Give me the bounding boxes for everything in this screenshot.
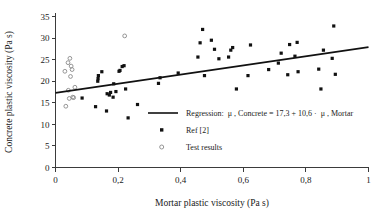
data-point-ref2 [296,41,299,44]
data-point-ref2 [81,96,84,99]
data-point-test-result [66,61,70,65]
data-point-ref2 [157,82,160,85]
data-point-ref2 [317,68,320,71]
y-tick-label: 5 [45,141,50,151]
scatter-chart-figure: 0510152025303500,20,40,60,81Mortar plast… [0,0,374,213]
data-point-ref2 [105,109,108,112]
data-point-ref2 [332,24,335,27]
data-point-ref2 [217,57,220,60]
data-point-ref2 [122,64,125,67]
legend-marker-test-results [160,145,164,149]
data-point-ref2 [246,74,249,77]
legend-label-regression: Regression: μ , Concrete = 17,3 + 10,6 ·… [186,109,353,118]
x-tick-label: 0,2 [112,175,123,185]
data-point-ref2 [96,77,99,80]
data-point-test-result [68,56,72,60]
regression-line [56,47,369,93]
y-tick-label: 0 [45,163,50,173]
data-point-ref2 [127,116,130,119]
legend-label-test-results: Test results [186,143,222,152]
data-point-test-result [64,104,68,108]
data-point-ref2 [97,74,100,77]
data-point-ref2 [114,90,117,93]
data-point-test-result [69,75,73,79]
data-point-ref2 [267,68,270,71]
data-point-ref2 [94,105,97,108]
data-point-ref2 [334,73,337,76]
data-point-ref2 [201,28,204,31]
data-point-ref2 [286,73,289,76]
data-point-ref2 [231,46,234,49]
data-point-test-result [123,34,127,38]
data-point-test-result [63,69,67,73]
data-point-test-result [73,85,77,89]
data-point-ref2 [196,55,199,58]
data-point-ref2 [136,103,139,106]
x-tick-label: 0 [53,175,58,185]
data-point-ref2 [235,87,238,90]
data-point-ref2 [280,52,283,55]
data-point-ref2 [319,87,322,90]
x-tick-label: 0,8 [300,175,312,185]
data-point-ref2 [124,87,127,90]
data-point-ref2 [111,96,114,99]
y-axis-title: Concrete plastic viscosity (Pa s) [4,31,15,153]
data-point-ref2 [199,41,202,44]
data-point-ref2 [277,61,280,64]
x-tick-label: 0,6 [238,175,250,185]
data-point-ref2 [322,49,325,52]
x-tick-label: 1 [366,175,371,185]
plot-canvas: 0510152025303500,20,40,60,81Mortar plast… [0,0,374,213]
data-point-ref2 [249,43,252,46]
x-axis-title: Mortar plastic viscosity (Pa s) [155,198,269,209]
y-tick-label: 15 [41,98,51,108]
y-tick-label: 30 [41,33,51,43]
data-point-ref2 [227,55,230,58]
legend-label-ref2: Ref [2] [186,126,209,135]
y-tick-label: 20 [41,76,51,86]
data-point-ref2 [288,43,291,46]
data-point-ref2 [203,74,206,77]
data-point-ref2 [109,91,112,94]
legend-marker-ref2 [160,128,163,131]
data-point-ref2 [118,69,121,72]
data-point-ref2 [296,70,299,73]
data-point-ref2 [331,57,334,60]
y-tick-label: 35 [41,12,51,22]
y-tick-label: 25 [41,55,51,65]
data-point-ref2 [100,70,103,73]
x-tick-label: 0,4 [175,175,187,185]
data-point-ref2 [213,48,216,51]
y-tick-label: 10 [41,120,51,130]
data-point-ref2 [210,39,213,42]
